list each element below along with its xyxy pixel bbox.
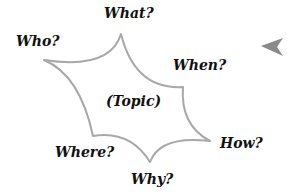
- label-how: How?: [220, 136, 263, 150]
- label-why: Why?: [131, 172, 173, 186]
- label-what: What?: [104, 6, 154, 20]
- label-topic: (Topic): [106, 94, 161, 108]
- label-when: When?: [173, 58, 226, 72]
- label-where: Where?: [55, 145, 114, 159]
- arrow-left-icon[interactable]: [261, 38, 283, 56]
- label-who: Who?: [16, 34, 59, 48]
